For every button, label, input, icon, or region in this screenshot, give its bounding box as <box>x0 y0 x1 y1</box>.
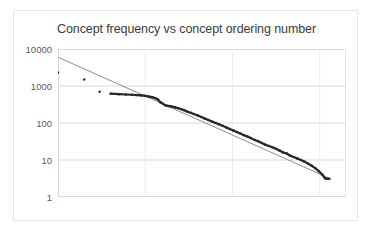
plot-svg <box>58 49 346 197</box>
y-axis-tick-label: 10000 <box>0 44 52 55</box>
chart-title: Concept frequency vs concept ordering nu… <box>14 22 359 36</box>
data-points <box>58 72 330 180</box>
y-axis-tick-label: 10 <box>0 155 52 166</box>
y-axis-tick-label: 100 <box>0 118 52 129</box>
data-point-connector <box>111 94 119 95</box>
data-point <box>58 72 59 74</box>
gridlines <box>58 49 346 197</box>
data-point <box>328 178 330 180</box>
y-axis-tick-label: 1000 <box>0 81 52 92</box>
y-axis-tick-label: 1 <box>0 192 52 203</box>
data-point <box>83 78 85 80</box>
plot-wrapper: 110100100010000 1101001000 <box>58 49 346 197</box>
chart-container: Concept frequency vs concept ordering nu… <box>13 10 358 221</box>
data-point <box>99 91 101 93</box>
